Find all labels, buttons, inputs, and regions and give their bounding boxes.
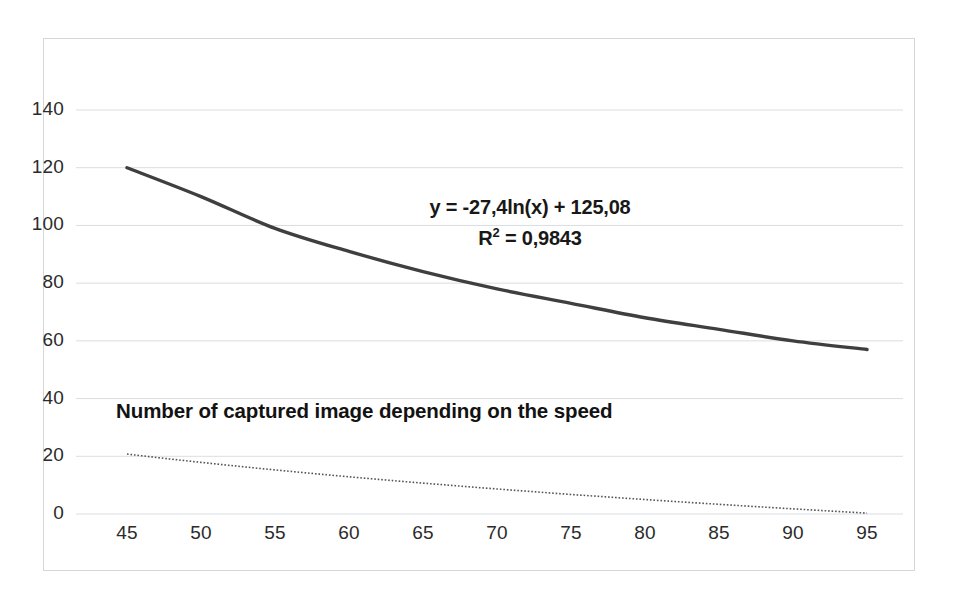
chart-container: 020406080100120140 455055606570758085909… <box>0 0 955 601</box>
trendline-r-squared: R2 = 0,9843 <box>330 223 730 254</box>
x-tick-label-55: 55 <box>245 522 305 544</box>
y-tick-label-140: 140 <box>0 98 64 120</box>
x-tick-label-70: 70 <box>467 522 527 544</box>
trendline-group <box>127 454 867 513</box>
x-tick-label-85: 85 <box>689 522 749 544</box>
y-tick-label-120: 120 <box>0 156 64 178</box>
chart-title: Number of captured image depending on th… <box>116 399 612 423</box>
y-tick-label-20: 20 <box>0 444 64 466</box>
x-tick-label-90: 90 <box>763 522 823 544</box>
x-tick-label-60: 60 <box>319 522 379 544</box>
trendline-annotation: y = -27,4ln(x) + 125,08 R2 = 0,9843 <box>330 192 730 254</box>
r-squared-exponent: 2 <box>493 225 500 240</box>
x-tick-label-65: 65 <box>393 522 453 544</box>
x-tick-label-95: 95 <box>837 522 897 544</box>
y-tick-label-60: 60 <box>0 329 64 351</box>
y-tick-label-0: 0 <box>0 502 64 524</box>
gridline-group <box>76 110 903 514</box>
x-tick-label-75: 75 <box>541 522 601 544</box>
r-squared-value: = 0,9843 <box>500 227 582 249</box>
x-tick-label-80: 80 <box>615 522 675 544</box>
trendline-path <box>127 454 867 513</box>
x-tick-label-45: 45 <box>97 522 157 544</box>
r-squared-prefix: R <box>478 227 492 249</box>
y-tick-label-80: 80 <box>0 271 64 293</box>
x-tick-label-50: 50 <box>171 522 231 544</box>
trendline-equation: y = -27,4ln(x) + 125,08 <box>330 192 730 223</box>
y-tick-label-40: 40 <box>0 387 64 409</box>
y-tick-label-100: 100 <box>0 213 64 235</box>
chart-canvas <box>0 0 955 601</box>
